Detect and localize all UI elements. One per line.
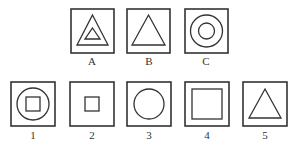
nested-triangles-icon — [70, 8, 115, 54]
triangle-icon — [242, 81, 288, 127]
option-3[interactable] — [126, 81, 172, 127]
option-5-label: 5 — [242, 129, 288, 141]
option-1-label: 1 — [10, 129, 56, 141]
figure-c — [184, 8, 229, 54]
concentric-circles-icon — [184, 8, 229, 54]
figure-b — [126, 8, 171, 54]
triangle-icon — [126, 8, 171, 54]
option-3-label: 3 — [126, 129, 172, 141]
option-2-label: 2 — [69, 129, 115, 141]
option-4-label: 4 — [184, 129, 230, 141]
option-5[interactable] — [242, 81, 288, 127]
option-2[interactable] — [69, 81, 115, 127]
large-square-icon — [184, 81, 230, 127]
square-in-circle-icon — [10, 81, 56, 127]
small-square-icon — [69, 81, 115, 127]
figure-b-label: B — [126, 55, 172, 67]
option-1[interactable] — [10, 81, 56, 127]
circle-icon — [126, 81, 172, 127]
option-4[interactable] — [184, 81, 230, 127]
figure-a-label: A — [69, 55, 115, 67]
figure-c-label: C — [183, 55, 229, 67]
figure-a — [70, 8, 115, 54]
